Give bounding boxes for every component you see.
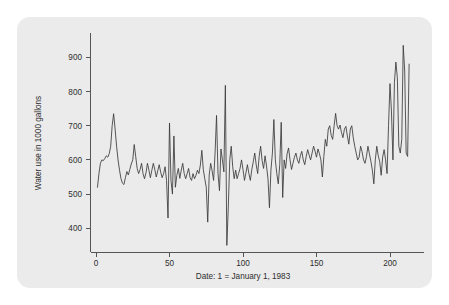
- x-axis-title: Date: 1 = January 1, 1983: [196, 272, 291, 281]
- x-tick-label-200: 200: [383, 259, 397, 268]
- water-use-line-chart: 900 800 700 600 500 400 Water use in 100…: [0, 0, 449, 305]
- x-tick-label-150: 150: [310, 259, 324, 268]
- x-tick-label-100: 100: [236, 259, 250, 268]
- y-tick-marks: [86, 57, 91, 228]
- y-axis-group: 900 800 700 600 500 400 Water use in 100…: [34, 33, 91, 252]
- water-use-series-line: [97, 45, 409, 245]
- x-tick-label-0: 0: [94, 259, 99, 268]
- y-axis-title: Water use in 1000 gallons: [34, 96, 43, 190]
- y-tick-label-400: 400: [68, 224, 82, 233]
- x-tick-label-50: 50: [165, 259, 175, 268]
- x-axis-group: 0 50 100 150 200 Date: 1 = January 1, 19…: [91, 253, 425, 282]
- y-tick-label-500: 500: [68, 190, 82, 199]
- x-tick-marks: [96, 253, 390, 258]
- y-tick-label-700: 700: [68, 122, 82, 131]
- y-tick-label-900: 900: [68, 53, 82, 62]
- figure-root: 900 800 700 600 500 400 Water use in 100…: [0, 0, 449, 305]
- y-tick-label-800: 800: [68, 88, 82, 97]
- y-tick-label-600: 600: [68, 156, 82, 165]
